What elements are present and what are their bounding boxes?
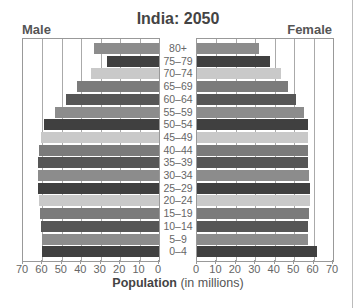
tick-label: 50 xyxy=(51,263,71,275)
female-bar xyxy=(197,170,309,181)
age-group-label: 65–69 xyxy=(160,80,196,92)
male-bar xyxy=(42,246,159,257)
age-group-label: 25–29 xyxy=(160,182,196,194)
tick-label: 30 xyxy=(90,263,110,275)
male-bar xyxy=(42,234,159,245)
male-bar xyxy=(38,157,159,168)
male-bar xyxy=(39,145,159,156)
female-bar xyxy=(197,221,308,232)
male-bar xyxy=(77,81,159,92)
male-bar xyxy=(44,119,159,130)
male-bar xyxy=(41,132,160,143)
tick-label: 60 xyxy=(303,263,323,275)
x-axis-label: Population (in millions) xyxy=(0,276,356,290)
female-bar xyxy=(197,56,270,67)
male-plot-area xyxy=(22,38,160,262)
gridline xyxy=(314,39,315,261)
page-border xyxy=(352,0,353,308)
tick-label: 70 xyxy=(322,263,342,275)
x-axis-label-units: (in millions) xyxy=(177,276,244,290)
female-bar xyxy=(197,157,308,168)
tick-label: 40 xyxy=(70,263,90,275)
age-group-label: 20–24 xyxy=(160,194,196,206)
age-group-label: 5–9 xyxy=(160,233,196,245)
female-bar xyxy=(197,81,288,92)
age-group-label: 30–34 xyxy=(160,169,196,181)
x-axis-label-bold: Population xyxy=(112,276,177,290)
age-group-label: 80+ xyxy=(160,42,196,54)
female-bar xyxy=(197,246,317,257)
age-group-label: 0–4 xyxy=(160,245,196,257)
tick-label: 20 xyxy=(109,263,129,275)
female-bar xyxy=(197,43,259,54)
tick-label: 0 xyxy=(186,263,206,275)
age-group-label: 75–79 xyxy=(160,55,196,67)
male-bar xyxy=(94,43,159,54)
age-group-label: 15–19 xyxy=(160,207,196,219)
female-bar xyxy=(197,94,296,105)
male-label: Male xyxy=(22,22,51,37)
male-bar xyxy=(107,56,159,67)
tick-label: 50 xyxy=(283,263,303,275)
male-bar xyxy=(38,183,159,194)
age-group-label: 55–59 xyxy=(160,106,196,118)
age-group-label: 40–44 xyxy=(160,144,196,156)
female-label: Female xyxy=(287,22,332,37)
female-bar xyxy=(197,145,308,156)
female-bar xyxy=(197,68,281,79)
tick-label: 70 xyxy=(12,263,32,275)
age-group-label: 35–39 xyxy=(160,156,196,168)
female-bar xyxy=(197,208,309,219)
male-bar xyxy=(38,170,159,181)
age-group-label: 50–54 xyxy=(160,118,196,130)
female-bar xyxy=(197,183,310,194)
female-bar xyxy=(197,234,308,245)
female-bar xyxy=(197,195,310,206)
male-bar xyxy=(55,107,159,118)
male-bar xyxy=(66,94,159,105)
female-bar xyxy=(197,132,308,143)
male-bar xyxy=(40,208,159,219)
tick-label: 10 xyxy=(129,263,149,275)
female-plot-area xyxy=(196,38,334,262)
age-group-label: 60–64 xyxy=(160,93,196,105)
male-bar xyxy=(41,221,160,232)
female-bar xyxy=(197,119,308,130)
age-group-label: 10–14 xyxy=(160,220,196,232)
tick-label: 60 xyxy=(31,263,51,275)
age-group-label: 45–49 xyxy=(160,131,196,143)
male-bar xyxy=(91,68,159,79)
age-group-label: 70–74 xyxy=(160,67,196,79)
tick-label: 40 xyxy=(264,263,284,275)
tick-label: 10 xyxy=(205,263,225,275)
tick-label: 20 xyxy=(225,263,245,275)
tick-label: 0 xyxy=(148,263,168,275)
tick-label: 30 xyxy=(244,263,264,275)
male-bar xyxy=(39,195,159,206)
female-bar xyxy=(197,107,304,118)
